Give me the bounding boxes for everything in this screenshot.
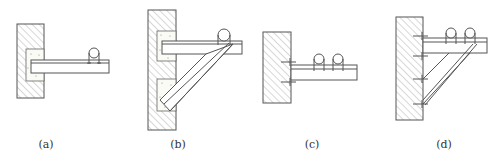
panel-d: (d): [396, 17, 487, 151]
panel-label: (d): [436, 138, 452, 151]
panel-label: (a): [38, 138, 53, 151]
pipe-support-diagram: (a) (b) (c): [0, 0, 504, 163]
wall: [396, 17, 423, 120]
bracket-arm: [423, 38, 487, 53]
panel-b: (b): [148, 10, 242, 151]
panel-label: (c): [305, 138, 320, 151]
pipe-1: [314, 54, 324, 64]
panel-label: (b): [170, 138, 186, 151]
pipe-2: [333, 54, 343, 64]
pipe: [218, 29, 230, 41]
pipe: [89, 48, 99, 58]
wall: [148, 10, 176, 130]
pipe-1: [446, 28, 456, 38]
panel-a: (a): [17, 24, 109, 151]
wall: [263, 32, 291, 103]
pipe-2: [465, 28, 475, 38]
bracket-arm: [31, 60, 109, 73]
panel-c: (c): [263, 32, 357, 151]
